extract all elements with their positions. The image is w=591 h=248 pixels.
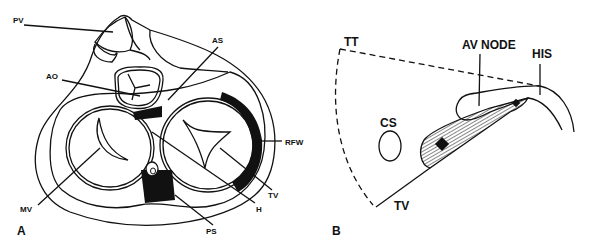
label-as: AS xyxy=(212,36,224,45)
panel-label-b: B xyxy=(332,224,341,238)
label-tt: TT xyxy=(344,35,359,49)
label-h: H xyxy=(256,205,262,214)
tricuspid-leaflet xyxy=(183,120,230,168)
dashed-boundary-left xyxy=(336,49,373,205)
label-tv: TV xyxy=(268,191,279,200)
panel-label-a: A xyxy=(17,224,26,238)
label-his: HIS xyxy=(532,47,552,61)
label-tv-b: TV xyxy=(394,199,409,213)
label-ao: AO xyxy=(46,72,58,81)
coronary-sinus-ostium xyxy=(379,131,401,161)
panel-b: TT AV NODE HIS CS TV B xyxy=(332,35,574,238)
compact-node-hatched xyxy=(421,98,528,168)
label-pv: PV xyxy=(13,16,24,25)
posterior-septum-block xyxy=(141,170,175,203)
heart-diagram: PV AO AS RFW MV TV H PS A TT AV NODE HIS… xyxy=(0,0,591,248)
panel-a: PV AO AS RFW MV TV H PS A xyxy=(13,16,304,238)
label-av-node: AV NODE xyxy=(462,38,516,52)
label-ps: PS xyxy=(206,227,217,236)
mitral-leaflet xyxy=(97,118,128,160)
dashed-boundary-top xyxy=(340,49,539,86)
label-rfw: RFW xyxy=(285,138,304,147)
mitral-valve-ring xyxy=(66,106,154,190)
label-mv: MV xyxy=(20,205,33,214)
label-cs: CS xyxy=(380,116,397,130)
